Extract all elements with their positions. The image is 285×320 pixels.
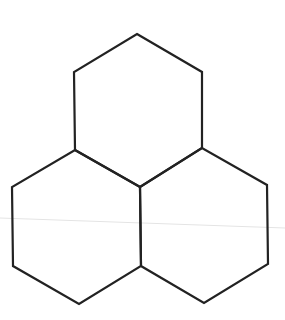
scan-artifact-line xyxy=(0,218,285,228)
hexagon-top xyxy=(74,34,202,187)
hexagon-group xyxy=(12,34,268,304)
hexagon-diagram xyxy=(0,0,285,320)
hexagon-bottom-left xyxy=(12,150,141,304)
